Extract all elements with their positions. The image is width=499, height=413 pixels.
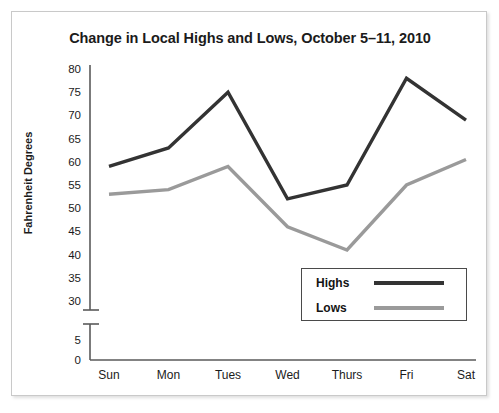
x-tick-label: Fri [400,368,414,382]
y-tick-label: 70 [68,109,81,121]
y-tick-label: 50 [68,202,81,214]
x-axis-tick-labels: SunMonTuesWedThursFriSat [98,368,475,382]
chart-legend: Highs Lows [301,268,467,321]
legend-label-lows: Lows [302,301,374,315]
y-tick-label: 45 [68,225,81,237]
y-tick-label: 30 [68,295,81,307]
y-tick-label: 65 [68,133,81,145]
y-tick-label: 40 [68,249,81,261]
y-tick-label: 55 [68,179,81,191]
legend-label-highs: Highs [302,276,374,290]
x-tick-label: Wed [275,368,299,382]
x-tick-label: Thurs [332,368,363,382]
y-tick-label: 60 [68,156,81,168]
y-axis-tick-labels: 807570656055504540353050 [68,63,81,366]
x-tick-label: Sun [98,368,119,382]
series-line-lows [109,159,466,249]
y-tick-label: 75 [68,86,81,98]
y-tick-label: 0 [75,354,81,366]
line-chart-plot: 807570656055504540353050 SunMonTuesWedTh… [12,12,488,397]
data-series-lines [109,78,466,250]
x-tick-label: Tues [215,368,241,382]
legend-item-lows: Lows [302,295,468,321]
legend-item-highs: Highs [302,270,468,296]
y-tick-label: 5 [75,334,81,346]
chart-figure-frame: Change in Local Highs and Lows, October … [11,11,487,396]
legend-swatch-lows [374,306,444,310]
y-tick-label: 80 [68,63,81,75]
x-tick-label: Mon [157,368,180,382]
x-tick-label: Sat [457,368,476,382]
y-tick-label: 35 [68,272,81,284]
legend-swatch-highs [374,281,444,285]
